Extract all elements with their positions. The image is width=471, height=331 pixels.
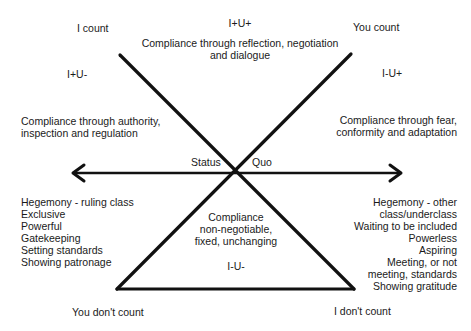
list-item: Setting standards [21, 244, 134, 256]
description-line: Compliance through reflection, negotiati… [120, 37, 360, 49]
quadrant-code-left: I+U- [67, 68, 87, 80]
list-item: Meeting, or not [354, 256, 457, 268]
description-line: Compliance [186, 211, 286, 223]
list-item: Hegemony - other [354, 196, 457, 208]
description-line: inspection and regulation [21, 127, 160, 139]
quadrant-code-top: I+U+ [150, 17, 330, 29]
corner-label-you-dont-count: You don't count [72, 306, 144, 318]
list-item: meeting, standards [354, 268, 457, 280]
list-item: class/underclass [354, 208, 457, 220]
list-item: Powerless [354, 232, 457, 244]
list-item: Exclusive [21, 208, 134, 220]
quadrant-description-bottom: Compliance non-negotiable, fixed, unchan… [186, 211, 286, 247]
description-line: non-negotiable, [186, 223, 286, 235]
corner-label-i-count: I count [77, 22, 109, 34]
list-item: Aspiring [354, 244, 457, 256]
description-line: and dialogue [120, 49, 360, 61]
list-item: Hegemony - ruling class [21, 196, 134, 208]
quadrant-description-right: Compliance through fear, conformity and … [336, 114, 457, 138]
description-line: Compliance through authority, [21, 115, 160, 127]
right-list: Hegemony - other class/underclass Waitin… [354, 196, 457, 292]
list-item: Showing patronage [21, 256, 134, 268]
description-line: fixed, unchanging [186, 235, 286, 247]
corner-label-you-count: You count [353, 21, 399, 33]
axis-label-quo: Quo [252, 156, 272, 168]
quadrant-description-left: Compliance through authority, inspection… [21, 115, 160, 139]
left-list: Hegemony - ruling class Exclusive Powerf… [21, 196, 134, 268]
corner-label-i-dont-count: I don't count [334, 305, 391, 317]
quadrant-description-top: Compliance through reflection, negotiati… [120, 37, 360, 61]
description-line: Compliance through fear, [336, 114, 457, 126]
list-item: Powerful [21, 220, 134, 232]
axis-label-status: Status [191, 156, 221, 168]
list-item: Waiting to be included [354, 220, 457, 232]
list-item: Showing gratitude [354, 280, 457, 292]
quadrant-code-right: I-U+ [382, 67, 402, 79]
list-item: Gatekeeping [21, 232, 134, 244]
quadrant-code-bottom: I-U- [206, 260, 266, 272]
description-line: conformity and adaptation [336, 126, 457, 138]
